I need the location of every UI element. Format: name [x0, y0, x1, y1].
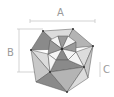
dimension-b-label: B — [7, 48, 14, 58]
dimension-a-label: A — [57, 8, 64, 18]
dimension-c-label: C — [103, 65, 110, 75]
polyhedron-faces — [31, 29, 93, 92]
